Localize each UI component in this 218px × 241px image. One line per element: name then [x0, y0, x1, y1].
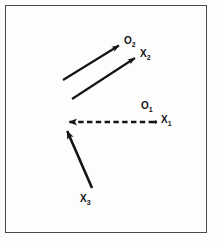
label-x1-base: X — [161, 114, 168, 125]
label-x2-base: X — [140, 48, 147, 59]
label-x1: X1 — [161, 115, 172, 127]
x2-vector — [72, 58, 135, 99]
label-o1-base: O — [141, 100, 149, 111]
label-o2-base: O — [124, 35, 132, 46]
x1-point — [154, 120, 157, 123]
label-x3-sub: 3 — [87, 199, 91, 206]
label-o2: O2 — [124, 36, 136, 48]
vector-canvas — [0, 0, 218, 241]
label-o1-sub: 1 — [149, 106, 153, 113]
label-x2: X2 — [140, 49, 151, 61]
label-x3-base: X — [80, 193, 87, 204]
label-o2-sub: 2 — [132, 41, 136, 48]
label-x1-sub: 1 — [168, 120, 172, 127]
figure-page: O2 X2 O1 X1 X3 — [0, 0, 218, 241]
label-x3: X3 — [80, 194, 91, 206]
label-o1: O1 — [141, 101, 153, 113]
x3-vector — [67, 131, 92, 188]
label-x2-sub: 2 — [147, 54, 151, 61]
